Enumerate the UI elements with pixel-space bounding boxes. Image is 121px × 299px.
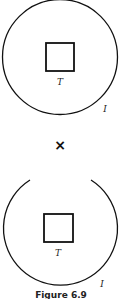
bottom-diagram: T I: [3, 180, 117, 289]
multiply-operator: ×: [54, 137, 66, 153]
top-inner-label: T: [57, 77, 64, 87]
bottom-outer-arc: [3, 180, 117, 285]
bottom-inner-square: [44, 214, 73, 242]
top-outer-circle: [3, 0, 118, 115]
top-diagram: T I: [3, 0, 118, 115]
figure-caption: Figure 6.9: [35, 290, 87, 299]
bottom-inner-label: T: [55, 248, 62, 258]
bottom-outer-label: I: [99, 279, 104, 289]
top-inner-square: [46, 43, 74, 71]
figure-diagram: T I × T I Figure 6.9: [0, 0, 121, 299]
top-outer-label: I: [102, 104, 107, 114]
